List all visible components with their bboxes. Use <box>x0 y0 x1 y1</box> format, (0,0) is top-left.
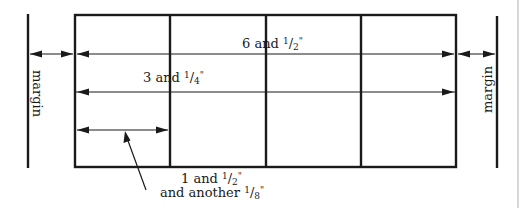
pointer-arrow <box>124 131 147 190</box>
column-width-arrow <box>77 127 168 134</box>
left-margin-label: margin <box>30 70 45 118</box>
column-width-label-line2: and another 1/8" <box>160 185 264 201</box>
full-width-label: 6 and 1/2" <box>242 36 303 52</box>
layout-diagram: margin margin 6 and 1/2" 3 and 1/4" 1 an… <box>0 0 522 208</box>
half-width-label: 3 and 1/4" <box>143 70 204 86</box>
left-margin-arrow <box>30 51 73 58</box>
right-margin-arrow <box>458 51 495 58</box>
right-margin-label: margin <box>480 65 495 113</box>
